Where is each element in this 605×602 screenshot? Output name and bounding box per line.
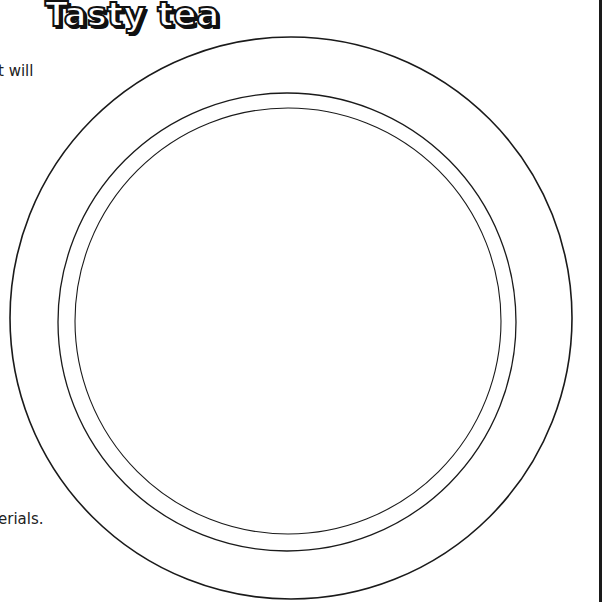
plate-outer-rim (10, 37, 572, 599)
page-right-border (599, 0, 602, 602)
plate-inner-ring (75, 108, 501, 534)
plate-illustration (0, 0, 605, 602)
plate-middle-ring (58, 93, 516, 551)
